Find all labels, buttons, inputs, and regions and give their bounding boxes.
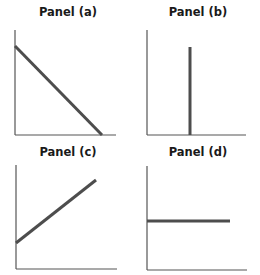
panel-c xyxy=(16,165,117,269)
panel-d xyxy=(147,166,247,270)
panel-b xyxy=(147,30,246,135)
charts-canvas xyxy=(0,0,260,275)
panel-a xyxy=(15,30,116,135)
panel-a-line xyxy=(15,46,102,135)
panel-c-line xyxy=(16,180,96,243)
